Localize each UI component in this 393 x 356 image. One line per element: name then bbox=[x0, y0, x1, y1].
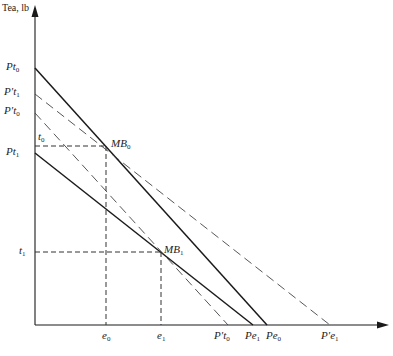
budget-diagram bbox=[0, 0, 393, 356]
budget-line-0 bbox=[35, 68, 267, 325]
label-t1: t1 bbox=[19, 245, 26, 258]
label-P-prime-t0-x: P′t0 bbox=[214, 330, 230, 343]
label-t0: t0 bbox=[38, 131, 45, 144]
label-Pt0: Pt0 bbox=[6, 61, 19, 74]
x-axis-arrow-icon bbox=[377, 322, 389, 329]
budget-line-1 bbox=[35, 153, 253, 325]
price-line-t1 bbox=[35, 94, 330, 325]
label-e0: e0 bbox=[102, 330, 110, 343]
label-Pe0: Pe0 bbox=[266, 330, 281, 343]
label-MB0: MB0 bbox=[111, 138, 130, 151]
label-P-prime-t1: P′t1 bbox=[4, 86, 20, 99]
label-Pt1: Pt1 bbox=[6, 146, 19, 159]
y-axis-title: Tea, lb bbox=[2, 2, 29, 13]
label-MB1: MB1 bbox=[164, 244, 183, 257]
label-e1: e1 bbox=[157, 330, 165, 343]
label-Pe1: Pe1 bbox=[245, 330, 260, 343]
y-axis-arrow-icon bbox=[32, 5, 39, 17]
label-P-prime-e1: P′e1 bbox=[321, 330, 339, 343]
label-P-prime-t0: P′t0 bbox=[4, 105, 20, 118]
price-line-t0 bbox=[35, 113, 228, 325]
